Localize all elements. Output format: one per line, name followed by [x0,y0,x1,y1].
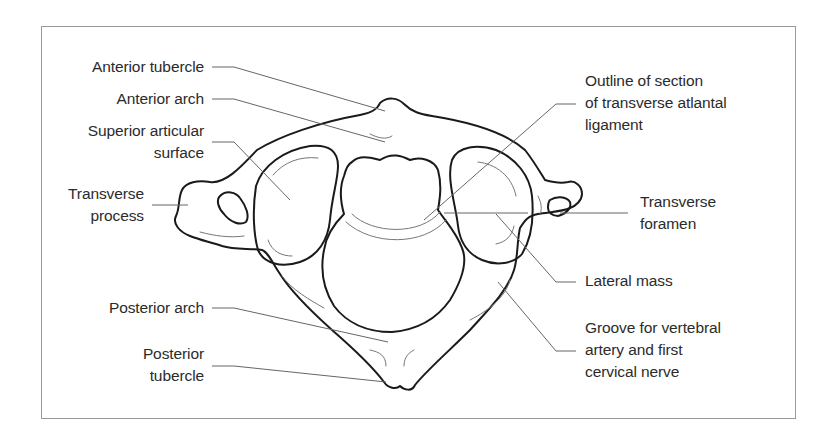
label-line: Anterior arch [117,88,204,110]
leader-posterior-tubercle [212,366,386,382]
vertebral-foramen [322,155,464,332]
leader-transverse-ligament [424,104,576,220]
label-superior-articular-surface: Superior articular surface [88,120,204,164]
label-line: artery and first [585,339,721,361]
right-articular-facet [450,147,533,264]
label-line: Transverse [68,183,144,205]
leader-lateral-mass [496,214,576,282]
label-posterior-tubercle: Posterior tubercle [143,343,204,387]
leader-groove-vertebral-artery [498,282,576,351]
label-line: ligament [585,114,727,136]
label-line: Lateral mass [585,270,673,292]
atlas-outer-outline [175,99,582,390]
label-line: tubercle [143,365,204,387]
label-transverse-atlantal-ligament: Outline of section of transverse atlanta… [585,70,727,136]
label-line: Anterior tubercle [92,56,204,78]
label-posterior-arch: Posterior arch [109,297,204,319]
label-line: of transverse atlantal [585,92,727,114]
label-groove-vertebral-artery: Groove for vertebral artery and first ce… [585,317,721,383]
label-line: Posterior arch [109,297,204,319]
transverse-ligament-outline [352,212,440,230]
label-line: foramen [640,213,716,235]
label-line: surface [88,142,204,164]
label-anterior-arch: Anterior arch [117,88,204,110]
left-transverse-foramen [218,192,248,223]
leader-superior-articular-surface [212,142,290,200]
label-line: Outline of section [585,70,727,92]
label-line: cervical nerve [585,361,721,383]
label-lateral-mass: Lateral mass [585,270,673,292]
leader-posterior-arch [212,308,388,342]
label-anterior-tubercle: Anterior tubercle [92,56,204,78]
label-line: Groove for vertebral [585,317,721,339]
label-line: process [68,205,144,227]
label-line: Superior articular [88,120,204,142]
label-transverse-foramen: Transverse foramen [640,191,716,235]
leader-anterior-tubercle [212,67,385,111]
leader-anterior-arch [212,99,385,142]
label-transverse-process: Transverse process [68,183,144,227]
label-line: Posterior [143,343,204,365]
label-line: Transverse [640,191,716,213]
